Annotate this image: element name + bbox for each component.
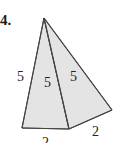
label-right-face: 5 — [70, 69, 77, 84]
label-bottom-front: 2 — [42, 135, 49, 143]
label-left-edge: 5 — [17, 69, 24, 84]
pyramid-figure: 5 5 5 2 2 — [0, 0, 121, 143]
label-bottom-right: 2 — [92, 124, 99, 139]
label-middle-edge: 5 — [44, 75, 51, 90]
